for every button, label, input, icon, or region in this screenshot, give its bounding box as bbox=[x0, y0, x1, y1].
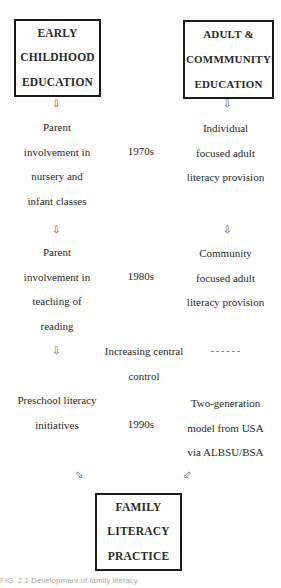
decade-1990s: 1990s bbox=[114, 412, 168, 437]
text-line: reading bbox=[0, 314, 114, 339]
text-line: involvement in bbox=[0, 140, 114, 165]
box-line: FAMILY bbox=[116, 502, 162, 514]
text-line: infant classes bbox=[0, 189, 114, 214]
box-line: EDUCATION bbox=[194, 79, 262, 90]
early-childhood-education-box: EARLY CHILDHOOD EDUCATION bbox=[14, 19, 101, 97]
text-line: Parent bbox=[0, 240, 114, 265]
text-line: Community bbox=[170, 241, 281, 266]
left-item-1990s: Preschool literacy initiatives bbox=[0, 388, 114, 437]
text-line: literacy provision bbox=[170, 165, 281, 190]
box-line: ADULT & bbox=[203, 29, 254, 40]
right-item-1970s: Individual focused adult literacy provis… bbox=[170, 116, 281, 190]
dashed-line: - - - - - - bbox=[170, 339, 281, 364]
diagonal-arrow-left-icon: ⬃ bbox=[183, 470, 191, 480]
down-arrow-icon: ⇩ bbox=[52, 346, 60, 356]
text-line: literacy provision bbox=[170, 290, 281, 315]
down-arrow-icon: ⇩ bbox=[223, 225, 231, 235]
right-item-1980s: Community focused adult literacy provisi… bbox=[170, 241, 281, 315]
figure-caption: FIG. 2.1 Development of family literacy bbox=[0, 576, 138, 585]
box-line: LITERACY bbox=[107, 526, 169, 538]
diagonal-arrow-right-icon: ⬂ bbox=[75, 470, 83, 480]
box-line: EDUCATION bbox=[22, 77, 93, 89]
text-line: focused adult bbox=[170, 266, 281, 291]
family-literacy-practice-box: FAMILY LITERACY PRACTICE bbox=[95, 493, 182, 571]
text-line: model from USA bbox=[170, 416, 281, 441]
text-line: focused adult bbox=[170, 141, 281, 166]
down-arrow-icon: ⇩ bbox=[52, 225, 60, 235]
decade-1980s: 1980s bbox=[114, 264, 168, 289]
down-arrow-icon: ⇩ bbox=[52, 99, 60, 109]
text-line: initiatives bbox=[0, 413, 114, 438]
adult-community-education-box: ADULT & COMMMUNITY EDUCATION bbox=[183, 20, 274, 99]
left-item-1980s: Parent involvement in teaching of readin… bbox=[0, 240, 114, 338]
box-line: PRACTICE bbox=[108, 551, 170, 563]
text-line: via ALBSU/BSA bbox=[170, 440, 281, 465]
left-item-1970s: Parent involvement in nursery and infant… bbox=[0, 115, 114, 213]
box-line: EARLY bbox=[37, 28, 77, 40]
right-item-1990s: Two-generation model from USA via ALBSU/… bbox=[170, 391, 281, 465]
text-line: involvement in bbox=[0, 265, 114, 290]
text-line: nursery and bbox=[0, 164, 114, 189]
decade-1970s: 1970s bbox=[114, 139, 168, 164]
text-line: control bbox=[98, 364, 190, 389]
down-arrow-icon: ⇩ bbox=[223, 99, 231, 109]
text-line: Preschool literacy bbox=[0, 388, 114, 413]
text-line: Individual bbox=[170, 116, 281, 141]
text-line: teaching of bbox=[0, 289, 114, 314]
box-line: COMMMUNITY bbox=[186, 54, 271, 65]
text-line: Two-generation bbox=[170, 391, 281, 416]
text-line: Parent bbox=[0, 115, 114, 140]
box-line: CHILDHOOD bbox=[20, 52, 95, 64]
